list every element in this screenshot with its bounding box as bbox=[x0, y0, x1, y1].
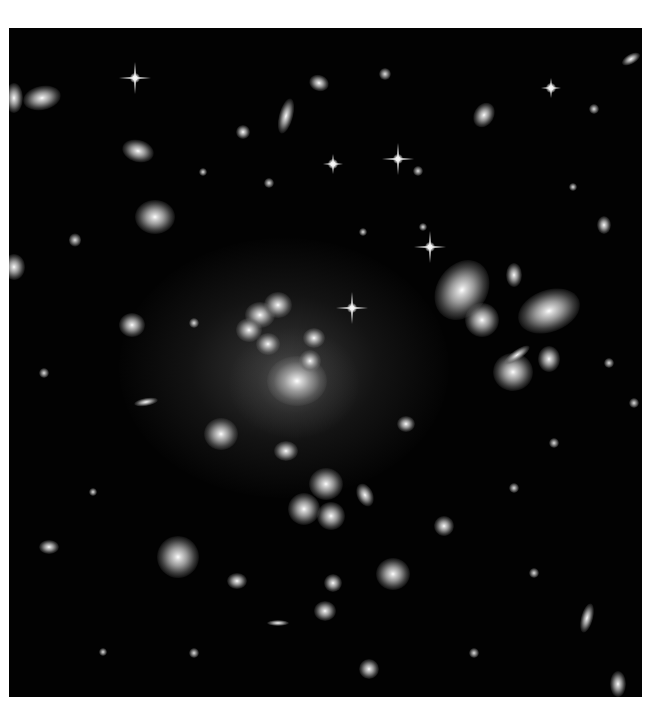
galaxy bbox=[577, 602, 596, 634]
faint-galaxy bbox=[569, 183, 577, 191]
galaxy bbox=[275, 97, 298, 135]
faint-galaxy bbox=[264, 178, 274, 188]
elliptical-galaxy bbox=[512, 280, 587, 341]
galaxy bbox=[9, 254, 25, 280]
faint-galaxy bbox=[509, 483, 519, 493]
galaxy bbox=[274, 441, 298, 461]
galaxy bbox=[376, 558, 410, 590]
galaxy bbox=[119, 313, 145, 337]
galaxy bbox=[620, 50, 642, 69]
galaxy bbox=[538, 346, 560, 372]
faint-galaxy bbox=[379, 68, 391, 80]
galaxy bbox=[264, 292, 292, 318]
faint-galaxy bbox=[69, 233, 81, 247]
galaxy bbox=[317, 502, 345, 530]
elliptical-galaxy bbox=[21, 82, 63, 113]
faint-galaxy bbox=[604, 358, 614, 368]
galaxy bbox=[204, 418, 238, 450]
galaxy bbox=[307, 72, 331, 94]
galaxy bbox=[309, 468, 343, 500]
galaxy bbox=[359, 659, 379, 679]
galaxy bbox=[135, 200, 175, 234]
faint-galaxy bbox=[629, 398, 639, 408]
faint-galaxy bbox=[189, 648, 199, 658]
galaxy-cluster-image bbox=[9, 28, 642, 697]
galaxy bbox=[469, 99, 499, 132]
faint-galaxy bbox=[199, 168, 207, 176]
galaxy bbox=[610, 671, 626, 697]
faint-galaxy bbox=[549, 438, 559, 448]
faint-galaxy bbox=[189, 318, 199, 328]
faint-galaxy bbox=[99, 648, 107, 656]
faint-galaxy bbox=[469, 648, 479, 658]
galaxy bbox=[397, 416, 415, 432]
edge-on-galaxy bbox=[267, 620, 289, 626]
faint-galaxy bbox=[89, 488, 97, 496]
galaxy bbox=[353, 481, 378, 510]
galaxy bbox=[9, 83, 23, 113]
galaxy bbox=[465, 303, 499, 337]
faint-galaxy bbox=[589, 104, 599, 114]
faint-galaxy bbox=[39, 368, 49, 378]
galaxy bbox=[256, 333, 280, 355]
faint-galaxy bbox=[419, 223, 427, 231]
galaxy bbox=[227, 573, 247, 589]
galaxy bbox=[288, 493, 320, 525]
galaxy bbox=[506, 263, 522, 287]
galaxy bbox=[314, 601, 336, 621]
galaxy bbox=[120, 136, 157, 166]
faint-galaxy bbox=[359, 228, 367, 236]
galaxy bbox=[299, 350, 321, 372]
galaxy bbox=[236, 125, 250, 139]
galaxy bbox=[324, 574, 342, 592]
galaxy bbox=[597, 216, 611, 234]
galaxy bbox=[303, 328, 325, 348]
faint-galaxy bbox=[413, 166, 423, 176]
faint-galaxy bbox=[529, 568, 539, 578]
galaxy bbox=[430, 512, 457, 539]
galaxy bbox=[157, 536, 199, 578]
galaxy bbox=[39, 540, 59, 554]
